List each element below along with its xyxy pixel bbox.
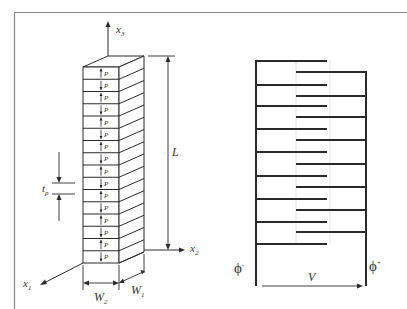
axis-x3-label: x3 [115,23,125,38]
layer-label: P [103,253,109,261]
axis-x2 [144,248,185,253]
layer-label: P [103,143,109,151]
phi-minus-label: ϕ- [234,260,245,276]
layer-label: P [103,131,109,139]
layer-label: P [103,229,109,237]
negative-fingers [255,61,327,244]
piezo-stack [83,56,144,263]
thickness-label: tp [42,182,49,197]
axis-x2-label: x2 [189,242,199,257]
layer-label: P [103,217,109,225]
layer-label: P [103,180,109,188]
thickness-dimension [52,152,75,221]
width2-label: W2 [94,290,108,306]
layer-label: P [103,192,109,200]
piezo-stack-diagram: PPPPPPPPPPPPPPPP x3 x2 x1 L tp [0,0,407,309]
layer-label: P [103,119,109,127]
layer-label: P [103,204,109,212]
voltage-arrow [262,284,363,289]
diagram-svg: PPPPPPPPPPPPPPPP x3 x2 x1 L tp [0,0,407,309]
width2-dimension [83,265,119,290]
width1-label: W1 [131,283,145,299]
axis-x1-label: x1 [22,277,31,292]
layer-label: P [103,168,109,176]
figure-frame [14,12,407,309]
phi-plus-label: ϕ+ [369,258,381,274]
length-dimension [148,56,175,250]
layer-label: P [103,70,109,78]
voltage-label: V [308,270,317,284]
layer-label: P [103,155,109,163]
layer-label: P [103,106,109,114]
layer-label: P [103,241,109,249]
axis-x1 [40,263,83,285]
axis-x3 [106,21,111,56]
length-label: L [171,145,179,159]
layer-label: P [103,82,109,90]
layer-label: P [103,94,109,102]
